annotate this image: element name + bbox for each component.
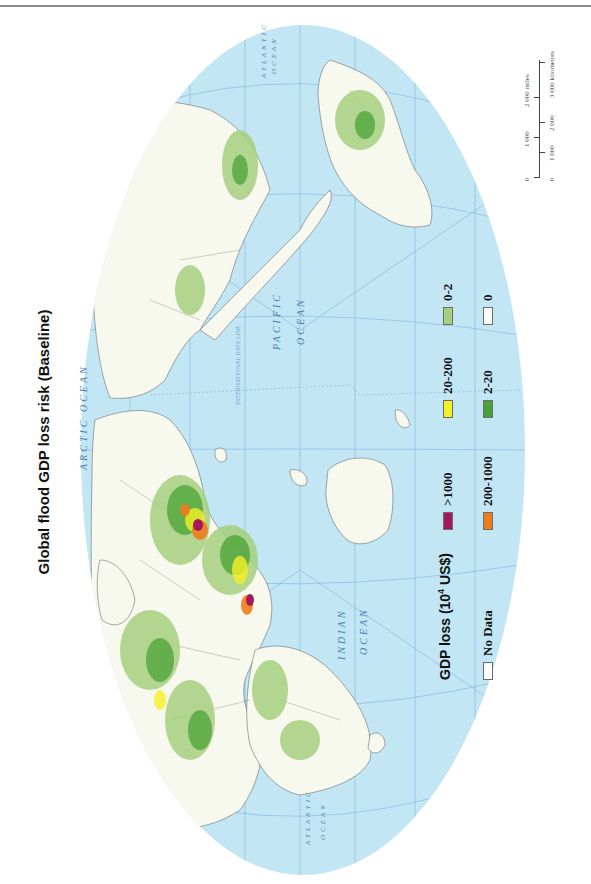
atlantic-ocean-label-top-2: OCEAN xyxy=(270,36,278,74)
legend-title-suffix: US$) xyxy=(437,553,453,589)
scale-tick xyxy=(540,62,545,63)
swatch-zero xyxy=(483,307,493,325)
map-title: Global flood GDP loss risk (Baseline) xyxy=(35,310,52,575)
scale-km-label: 3 000 kilometres xyxy=(548,51,556,98)
scale-bar: 0 1 000 2 000 miles 0 1 000 2 000 3 000 … xyxy=(517,33,567,183)
swatch-gt-1000 xyxy=(443,512,453,530)
legend-item-200-1000: 200-1000 xyxy=(480,456,496,530)
legend-label: No Data xyxy=(480,610,496,656)
swatch-no-data xyxy=(483,662,493,680)
swatch-2-20 xyxy=(483,400,493,418)
legend-label: 2-20 xyxy=(480,370,496,394)
pacific-ocean-label: PACIFIC xyxy=(271,292,282,351)
legend-item-2-20: 2-20 xyxy=(480,370,496,418)
indian-ocean-label-2: OCEAN xyxy=(358,607,369,655)
date-line-label: INTERNATIONAL DATE LINE xyxy=(235,325,241,405)
legend-title-exponent: 4 xyxy=(436,589,446,594)
legend-label: 0-2 xyxy=(440,284,456,301)
scale-tick xyxy=(534,97,539,98)
scale-km-label: 2 000 xyxy=(548,115,556,131)
legend-item-zero: 0 xyxy=(480,295,496,326)
indian-ocean-label: INDIAN xyxy=(336,609,347,661)
scale-km-label: 1 000 xyxy=(548,145,556,161)
scale-tick xyxy=(534,177,539,178)
scale-tick xyxy=(540,122,545,123)
legend-item-no-data: No Data xyxy=(480,610,496,680)
legend-item-20-200: 20-200 xyxy=(440,357,456,418)
scale-miles-label: 0 xyxy=(523,178,531,182)
legend-label: 20-200 xyxy=(440,357,456,394)
legend-item-gt-1000: >1000 xyxy=(440,473,456,530)
arctic-ocean-label: ARCTIC OCEAN xyxy=(78,364,89,471)
atlantic-ocean-label-bottom-2: OCEAN xyxy=(319,802,327,840)
legend-title-prefix: GDP loss (10 xyxy=(437,594,453,680)
legend-label: 0 xyxy=(480,295,496,302)
scale-miles-label: 1 000 xyxy=(523,131,531,147)
atlantic-ocean-label-bottom: ATLANTIC xyxy=(304,789,312,846)
swatch-0-2 xyxy=(443,307,453,325)
scale-km-label: 0 xyxy=(548,178,556,182)
scale-tick xyxy=(540,152,545,153)
legend-item-0-2: 0-2 xyxy=(440,284,456,325)
atlantic-ocean-label-top: ATLANTIC xyxy=(260,22,268,79)
legend: GDP loss (104 US$) No Data >1000 200-100… xyxy=(430,260,510,680)
legend-label: 200-1000 xyxy=(480,456,496,506)
swatch-200-1000 xyxy=(483,512,493,530)
scale-miles-label: 2 000 miles xyxy=(523,74,531,107)
swatch-20-200 xyxy=(443,400,453,418)
scale-line xyxy=(539,60,540,178)
legend-title: GDP loss (104 US$) xyxy=(436,553,453,680)
legend-label: >1000 xyxy=(440,473,456,506)
scale-tick xyxy=(534,137,539,138)
pacific-ocean-label-2: OCEAN xyxy=(295,297,306,345)
